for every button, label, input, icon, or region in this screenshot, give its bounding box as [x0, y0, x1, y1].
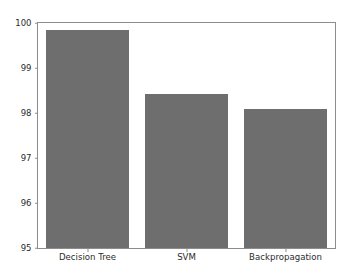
y-axis-tick-label: 97 — [21, 154, 35, 163]
y-axis-tick-2: 97 — [21, 154, 38, 163]
y-axis-tick-label: 96 — [21, 199, 35, 208]
x-axis-label-decision-tree: Decision Tree — [59, 253, 116, 262]
x-axis-tick-mark-1 — [186, 248, 187, 252]
x-axis-label-svm: SVM — [177, 253, 196, 262]
y-axis-tick-mark — [35, 68, 39, 69]
y-axis-tick-mark — [35, 23, 39, 24]
x-axis-label-backpropagation: Backpropagation — [249, 253, 322, 262]
bar-svm — [145, 94, 227, 248]
y-axis-tick-mark — [35, 158, 39, 159]
y-axis-tick-5: 100 — [15, 19, 38, 28]
bar-chart-figure: 95 96 97 98 99 100 De — [0, 0, 355, 279]
y-axis-tick-mark — [35, 113, 39, 114]
y-axis-tick-mark — [35, 248, 39, 249]
y-axis-tick-mark — [35, 203, 39, 204]
y-axis-tick-label: 100 — [15, 19, 34, 28]
x-axis-tick-mark-0 — [87, 248, 88, 252]
y-axis-tick-1: 96 — [21, 199, 38, 208]
y-axis-tick-label: 98 — [21, 109, 35, 118]
y-axis-tick-label: 95 — [21, 244, 35, 253]
y-axis-tick-4: 99 — [21, 64, 38, 73]
bar-decision-tree — [46, 30, 128, 248]
bar-backpropagation — [244, 109, 326, 248]
y-axis-tick-3: 98 — [21, 109, 38, 118]
plot-area: 95 96 97 98 99 100 De — [37, 22, 336, 249]
y-axis-tick-0: 95 — [21, 244, 38, 253]
y-axis-tick-label: 99 — [21, 64, 35, 73]
x-axis-tick-mark-2 — [285, 248, 286, 252]
